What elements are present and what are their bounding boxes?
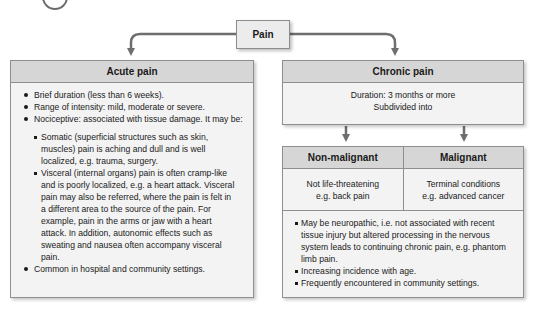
acute-bullet: Common in hospital and community setting… bbox=[23, 263, 245, 275]
acute-sub-bullet: Visceral (internal organs) pain is often… bbox=[34, 167, 237, 263]
subtypes-body-row: Not life-threatening e.g. back pain Term… bbox=[283, 169, 523, 211]
malignant-title: Malignant bbox=[404, 147, 524, 168]
chronic-subtypes-panel: Non-malignant Malignant Not life-threate… bbox=[282, 146, 524, 298]
non-malignant-line2: e.g. back pain bbox=[316, 190, 370, 202]
chronic-subdivided: Subdivided into bbox=[283, 101, 523, 113]
acute-sub-bullet: Somatic (superficial structures such as … bbox=[34, 131, 237, 167]
malignant-cell: Terminal conditions e.g. advanced cancer bbox=[404, 169, 524, 210]
pain-root-node: Pain bbox=[236, 20, 290, 49]
chronic-pain-panel: Chronic pain Duration: 3 months or more … bbox=[282, 60, 524, 125]
acute-pain-panel: Acute pain Brief duration (less than 6 w… bbox=[10, 60, 254, 298]
acute-bullet: Brief duration (less than 6 weeks). bbox=[23, 89, 245, 101]
acute-bullet: Range of intensity: mild, moderate or se… bbox=[23, 101, 245, 113]
chronic-bullet: Increasing incidence with age. bbox=[295, 265, 515, 277]
chronic-bullet: Frequently encountered in community sett… bbox=[295, 277, 515, 289]
malignant-line2: e.g. advanced cancer bbox=[422, 190, 504, 202]
pain-root-label: Pain bbox=[252, 29, 273, 40]
chronic-duration: Duration: 3 months or more bbox=[283, 89, 523, 101]
malignant-line1: Terminal conditions bbox=[426, 178, 500, 190]
acute-bullet-text: Nociceptive: associated with tissue dama… bbox=[34, 114, 243, 124]
acute-pain-title: Acute pain bbox=[11, 61, 253, 83]
chronic-pain-description: Duration: 3 months or more Subdivided in… bbox=[283, 83, 523, 113]
non-malignant-title: Non-malignant bbox=[283, 147, 404, 168]
chronic-bullet: May be neuropathic, i.e. not associated … bbox=[295, 217, 515, 265]
acute-pain-list: Brief duration (less than 6 weeks). Rang… bbox=[11, 83, 253, 275]
acute-sub-list: Somatic (superficial structures such as … bbox=[34, 125, 245, 263]
non-malignant-cell: Not life-threatening e.g. back pain bbox=[283, 169, 404, 210]
subtypes-header-row: Non-malignant Malignant bbox=[283, 147, 523, 169]
chronic-pain-title: Chronic pain bbox=[283, 61, 523, 83]
decorative-circle-icon bbox=[42, 0, 68, 10]
non-malignant-line1: Not life-threatening bbox=[306, 178, 379, 190]
acute-bullet: Nociceptive: associated with tissue dama… bbox=[23, 113, 245, 263]
chronic-bullet-list: May be neuropathic, i.e. not associated … bbox=[283, 211, 523, 289]
